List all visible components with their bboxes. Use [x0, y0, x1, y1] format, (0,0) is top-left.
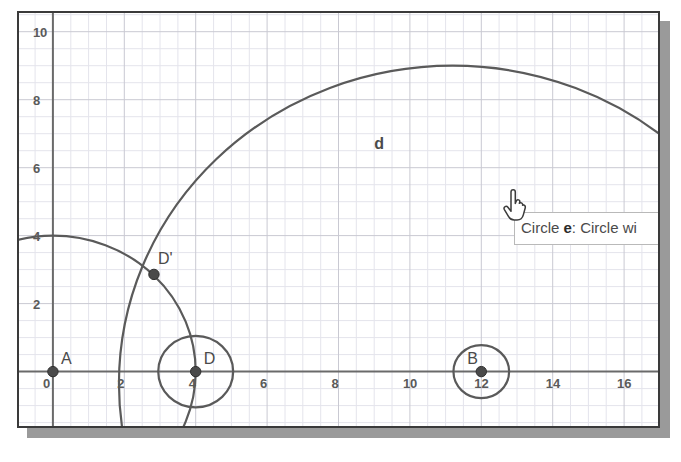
object-labels: d: [374, 135, 384, 152]
x-tick-label: 10: [403, 376, 417, 391]
geometry-applet-panel[interactable]: 0246810121416246810 d ADBD' Circle e: Ci…: [17, 11, 660, 428]
x-tick-label: 14: [546, 376, 561, 391]
point-A[interactable]: [48, 366, 58, 376]
point-B[interactable]: [476, 366, 486, 376]
y-tick-label: 10: [33, 25, 47, 40]
point-label-B: B: [467, 350, 478, 367]
hand-cursor-icon: [500, 189, 530, 223]
x-tick-label: 6: [260, 376, 267, 391]
circle-label-d: d: [374, 135, 384, 152]
y-tick-label: 8: [33, 93, 40, 108]
point-label-A: A: [61, 350, 72, 367]
x-tick-label: 16: [617, 376, 631, 391]
y-tick-label: 2: [33, 297, 40, 312]
point-D[interactable]: [191, 366, 201, 376]
y-tick-label: 6: [33, 161, 40, 176]
point-label-Dp: D': [158, 250, 173, 267]
point-label-D: D: [204, 350, 216, 367]
tooltip-suffix: : Circle wi: [572, 219, 637, 236]
x-tick-label: 12: [474, 376, 488, 391]
applet-stage: 0246810121416246810 d ADBD' Circle e: Ci…: [0, 0, 681, 462]
tooltip-object-name: e: [564, 219, 572, 236]
x-tick-label: 0: [43, 376, 50, 391]
x-tick-label: 8: [332, 376, 339, 391]
point-Dp[interactable]: [149, 269, 159, 279]
object-tooltip: Circle e: Circle wi: [514, 212, 660, 245]
